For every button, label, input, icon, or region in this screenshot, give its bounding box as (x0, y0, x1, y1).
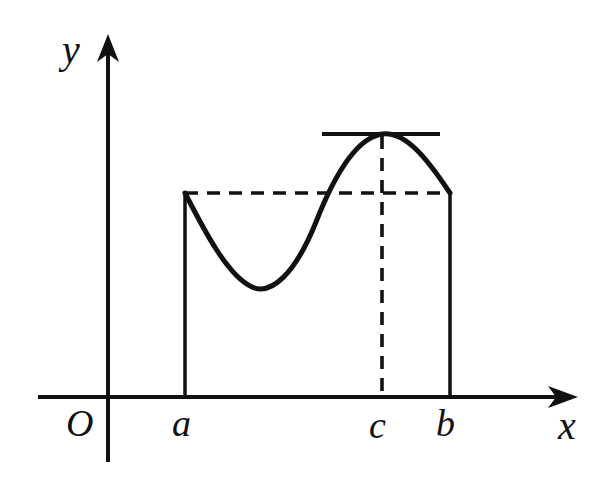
point-label-c: c (369, 406, 386, 444)
y-axis-label: y (62, 30, 80, 70)
figure-canvas: y x O a c b (0, 0, 613, 490)
point-label-b: b (436, 404, 455, 442)
point-label-a: a (172, 404, 191, 442)
origin-label: O (66, 404, 93, 442)
function-curve (185, 134, 450, 289)
x-axis-label: x (558, 406, 576, 446)
